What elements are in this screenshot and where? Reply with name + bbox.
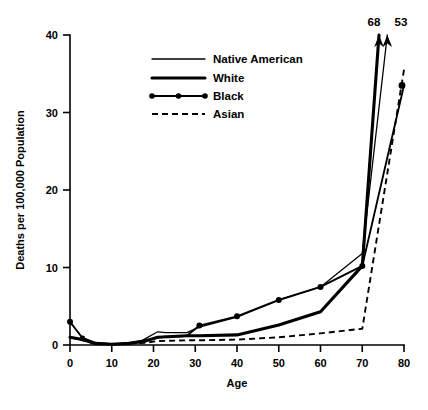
- x-tick-label-10: 10: [106, 357, 118, 369]
- annotation-value-68: 68: [368, 16, 381, 28]
- x-tick-label-70: 70: [356, 357, 368, 369]
- x-tick-label-60: 60: [314, 357, 326, 369]
- x-tick-marks: [70, 345, 404, 352]
- legend-label-white: White: [213, 72, 244, 84]
- x-tick-label-20: 20: [147, 357, 159, 369]
- y-tick-label-10: 10: [46, 262, 58, 274]
- y-tick-label-20: 20: [46, 184, 58, 196]
- x-tick-label-80: 80: [398, 357, 410, 369]
- data-point-black-age0: [67, 319, 73, 325]
- x-tick-labels: 0 10 20 30 40 50 60 70 80: [67, 357, 410, 369]
- x-tick-label-30: 30: [189, 357, 201, 369]
- y-tick-marks: [63, 35, 70, 345]
- line-chart-canvas: 0 10 20 30 40 0 10 20 30 40 50 60 70 80 …: [0, 0, 428, 410]
- y-tick-label-0: 0: [52, 339, 58, 351]
- caption-partial-text: [0, 401, 428, 405]
- y-tick-label-30: 30: [46, 107, 58, 119]
- legend-item-asian[interactable]: Asian: [152, 108, 244, 120]
- legend-label-black: Black: [213, 90, 244, 102]
- annotation-value-53: 53: [395, 16, 408, 28]
- caption-sliver: [0, 401, 428, 410]
- x-tick-label-0: 0: [67, 357, 73, 369]
- y-axis-title: Deaths per 100,000 Population: [14, 110, 26, 270]
- legend-swatch-black-dot-end: [202, 93, 208, 99]
- legend-swatch-black-dot-mid: [176, 93, 182, 99]
- data-point-black-age3: [80, 335, 85, 340]
- legend-swatch-black-dot-start: [149, 93, 155, 99]
- y-tick-label-40: 40: [46, 29, 58, 41]
- data-point-black-age31: [196, 323, 202, 329]
- series-markers-black: [67, 82, 405, 341]
- offscale-arrow-native-american: [383, 35, 393, 47]
- legend-label-native-american: Native American: [213, 53, 303, 65]
- legend-item-white[interactable]: White: [152, 72, 244, 84]
- data-point-black-age60: [318, 284, 324, 290]
- chart-figure: 0 10 20 30 40 0 10 20 30 40 50 60 70 80 …: [0, 0, 428, 410]
- chart-legend: Native American White Black Asian: [149, 53, 303, 120]
- legend-label-asian: Asian: [213, 108, 244, 120]
- data-point-black-age70: [359, 263, 365, 269]
- legend-item-black[interactable]: Black: [149, 90, 244, 102]
- x-tick-label-40: 40: [231, 357, 243, 369]
- x-tick-label-50: 50: [273, 357, 285, 369]
- data-point-black-age50: [276, 297, 282, 303]
- data-point-black-age40: [234, 313, 240, 319]
- data-point-black-age80: [399, 82, 406, 89]
- y-tick-labels: 0 10 20 30 40: [46, 29, 58, 351]
- legend-item-native-american[interactable]: Native American: [152, 53, 303, 65]
- x-axis-title: Age: [227, 377, 248, 389]
- series-line-black: [70, 85, 404, 344]
